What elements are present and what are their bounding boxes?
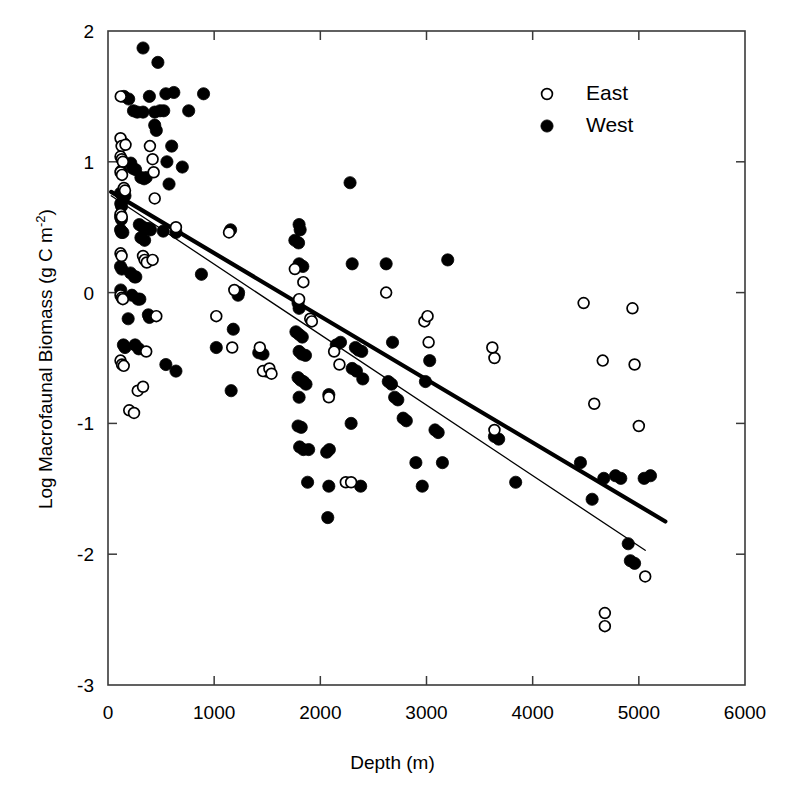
data-point: [424, 355, 436, 367]
data-point: [145, 141, 156, 152]
data-point: [640, 571, 651, 582]
data-point: [345, 417, 357, 429]
data-point: [489, 353, 500, 364]
data-point: [138, 381, 149, 392]
data-point: [346, 477, 357, 488]
data-point: [633, 421, 644, 432]
data-point: [296, 331, 308, 343]
data-point: [487, 342, 498, 353]
data-point: [229, 285, 240, 296]
data-point: [254, 342, 265, 353]
data-point: [323, 392, 334, 403]
data-point: [210, 341, 222, 353]
data-point: [599, 621, 610, 632]
plot-canvas: 0100020003000400050006000210-1-2-3 EastW…: [0, 0, 785, 794]
data-point: [149, 193, 160, 204]
data-point: [289, 264, 300, 275]
data-point: [392, 394, 404, 406]
data-point: [143, 90, 155, 102]
data-point: [574, 457, 586, 469]
data-point: [139, 234, 151, 246]
data-point: [380, 258, 392, 270]
data-point: [266, 368, 277, 379]
data-point: [356, 345, 368, 357]
data-point: [117, 294, 128, 305]
y-axis-title-wrap: Log Macrofaunal Biomass (g C m-2): [33, 9, 57, 709]
x-axis-title: Depth (m): [0, 752, 785, 774]
data-point: [117, 169, 128, 180]
y-axis-title-exponent: -2: [33, 216, 48, 227]
data-point: [306, 316, 317, 327]
data-point: [615, 472, 627, 484]
data-point: [195, 268, 207, 280]
data-point: [137, 106, 149, 118]
data-point: [120, 139, 131, 150]
data-point: [346, 258, 358, 270]
data-point: [157, 225, 169, 237]
data-point: [578, 298, 589, 309]
data-point: [170, 365, 182, 377]
data-point: [385, 378, 397, 390]
legend: EastWest: [541, 81, 634, 136]
data-point: [225, 385, 237, 397]
data-point: [150, 124, 162, 136]
data-point: [597, 355, 608, 366]
data-point: [134, 293, 146, 305]
y-tick-label: -2: [77, 544, 94, 565]
data-point: [381, 287, 392, 298]
data-point: [442, 254, 454, 266]
data-point: [152, 56, 164, 68]
data-point: [151, 311, 162, 322]
data-point: [510, 476, 522, 488]
data-point: [117, 156, 128, 167]
legend-marker-west: [541, 120, 553, 132]
x-tick-label: 1000: [193, 702, 235, 723]
data-point: [589, 398, 600, 409]
data-point: [644, 470, 656, 482]
data-point: [161, 156, 173, 168]
data-point: [116, 211, 127, 222]
data-point: [227, 323, 239, 335]
data-point: [224, 227, 235, 238]
x-tick-label: 3000: [405, 702, 447, 723]
data-point: [116, 251, 127, 262]
data-point: [137, 42, 149, 54]
y-axis-title-close: ): [35, 209, 56, 215]
data-point: [344, 177, 356, 189]
data-point: [416, 480, 428, 492]
x-tick-label: 6000: [724, 702, 766, 723]
data-point: [599, 608, 610, 619]
data-point: [629, 359, 640, 370]
data-point: [120, 185, 131, 196]
data-point: [423, 337, 434, 348]
y-tick-label: 1: [83, 152, 94, 173]
data-point: [163, 178, 175, 190]
data-point: [300, 378, 312, 390]
trendline-west: [111, 192, 665, 522]
data-point: [168, 86, 180, 98]
data-point: [183, 105, 195, 117]
data-point: [130, 271, 142, 283]
trendlines: [111, 192, 665, 550]
data-point: [147, 154, 158, 165]
y-tick-label: 2: [83, 21, 94, 42]
data-point: [301, 476, 313, 488]
y-tick-label: -1: [77, 413, 94, 434]
data-point: [432, 426, 444, 438]
data-point: [334, 359, 345, 370]
data-point: [627, 303, 638, 314]
data-point: [158, 105, 170, 117]
data-point: [299, 349, 311, 361]
data-point: [598, 472, 610, 484]
data-point: [422, 311, 433, 322]
x-tick-label: 4000: [512, 702, 554, 723]
data-point: [295, 421, 307, 433]
x-tick-label: 0: [103, 702, 114, 723]
y-tick-label: -3: [77, 675, 94, 696]
data-point: [436, 457, 448, 469]
data-point: [115, 91, 126, 102]
figure-scatter-plot: 0100020003000400050006000210-1-2-3 EastW…: [0, 0, 785, 794]
data-point: [211, 311, 222, 322]
data-point: [147, 255, 158, 266]
data-point: [176, 161, 188, 173]
